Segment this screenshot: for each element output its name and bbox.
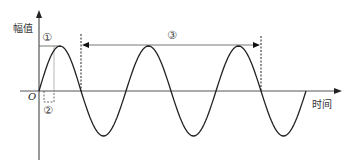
marker-2: ② xyxy=(43,104,53,117)
x-axis-label: 时间 xyxy=(312,96,332,111)
left-arrow-icon xyxy=(82,42,89,48)
marker-3: ③ xyxy=(167,29,177,42)
quarter-period-box xyxy=(44,91,54,102)
sine-wave-diagram xyxy=(0,0,350,166)
marker-1: ① xyxy=(42,31,52,44)
x-axis-arrow-icon xyxy=(334,88,342,94)
y-axis-label: 幅值 xyxy=(13,20,33,35)
right-arrow-icon xyxy=(253,42,260,48)
y-axis-arrow-icon xyxy=(36,10,42,18)
origin-label: O xyxy=(28,91,36,102)
